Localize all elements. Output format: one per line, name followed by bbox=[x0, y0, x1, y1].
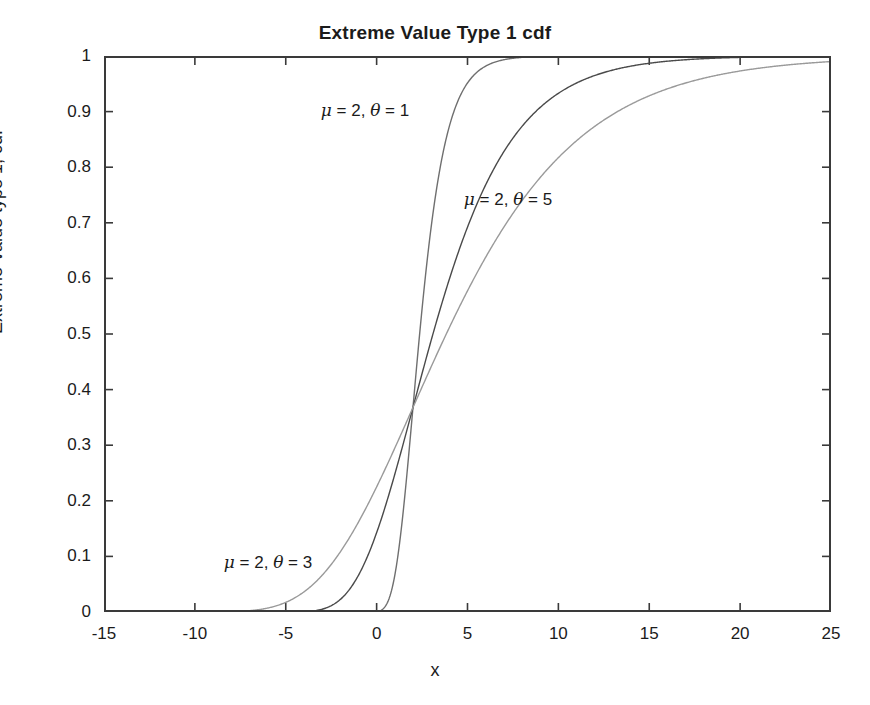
y-tick-label: 1 bbox=[0, 46, 91, 66]
y-tick-label: 0.7 bbox=[0, 213, 91, 233]
curve-annotation-2: μ = 2, θ = 3 bbox=[224, 552, 312, 573]
x-tick-label: -5 bbox=[278, 624, 293, 644]
curve-annotation-1: μ = 2, θ = 5 bbox=[464, 189, 552, 210]
y-tick-label: 0.2 bbox=[0, 491, 91, 511]
x-tick-label: 15 bbox=[640, 624, 659, 644]
plot-frame bbox=[104, 56, 831, 612]
x-tick-label: 5 bbox=[463, 624, 472, 644]
x-tick-label: 25 bbox=[822, 624, 841, 644]
x-tick-label: 10 bbox=[549, 624, 568, 644]
y-tick-label: 0 bbox=[0, 602, 91, 622]
x-tick-label: -10 bbox=[183, 624, 208, 644]
curve-annotation-0: μ = 2, θ = 1 bbox=[321, 100, 409, 121]
y-tick-label: 0.1 bbox=[0, 546, 91, 566]
x-axis-label: x bbox=[0, 660, 870, 681]
chart-figure: Extreme Value Type 1 cdf Extreme-value t… bbox=[0, 0, 870, 705]
x-tick-label: 0 bbox=[372, 624, 381, 644]
x-tick-label: -15 bbox=[92, 624, 117, 644]
y-tick-label: 0.9 bbox=[0, 102, 91, 122]
y-tick-label: 0.4 bbox=[0, 380, 91, 400]
chart-title: Extreme Value Type 1 cdf bbox=[0, 22, 870, 44]
y-tick-label: 0.3 bbox=[0, 435, 91, 455]
y-tick-label: 0.6 bbox=[0, 268, 91, 288]
plot-area bbox=[104, 56, 831, 612]
x-tick-label: 20 bbox=[731, 624, 750, 644]
y-tick-label: 0.8 bbox=[0, 157, 91, 177]
y-tick-label: 0.5 bbox=[0, 324, 91, 344]
